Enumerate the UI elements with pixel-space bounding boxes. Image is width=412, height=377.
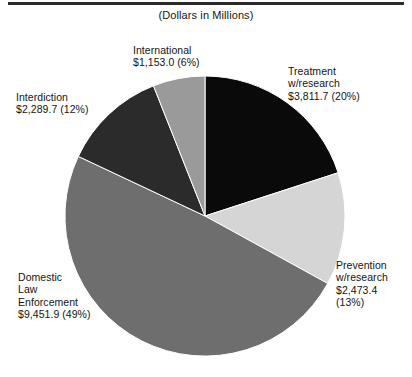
- pie-graphic: [64, 75, 346, 357]
- pie-svg: [64, 75, 346, 357]
- slice-label-domestic: Domestic Law Enforcement $9,451.9 (49%): [18, 271, 91, 321]
- slice-label-treatment: Treatment w/research $3,811.7 (20%): [288, 65, 360, 102]
- slice-label-interdiction: Interdiction $2,289.7 (12%): [16, 91, 89, 116]
- slice-label-international: International $1,153.0 (6%): [133, 44, 200, 69]
- pie-slices: [65, 76, 345, 356]
- header-divider: [8, 2, 404, 5]
- chart-subtitle: (Dollars in Millions): [0, 9, 412, 22]
- slice-label-prevention: Prevention w/research $2,473.4 (13%): [336, 259, 388, 309]
- pie-chart-figure: (Dollars in Millions) International $1,1…: [0, 0, 412, 377]
